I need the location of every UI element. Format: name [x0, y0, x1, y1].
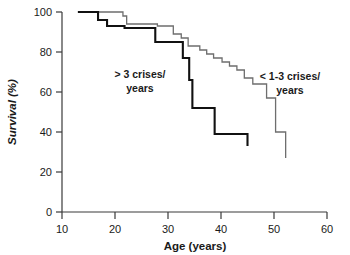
- x-tick-label-40: 40: [215, 223, 227, 235]
- x-tick-label-10: 10: [56, 223, 68, 235]
- annotation-low-crises-line1: < 1-3 crises/: [260, 70, 321, 82]
- y-tick-label-80: 80: [40, 46, 52, 58]
- x-tick-label-50: 50: [268, 223, 280, 235]
- survival-curve-figure: 100 80 60 40 20 0 10 20 30 40 50: [0, 0, 350, 255]
- y-tick-label-40: 40: [40, 126, 52, 138]
- axes: [62, 12, 327, 212]
- y-tick-label-0: 0: [46, 206, 52, 218]
- annotation-high-crises: > 3 crises/ years: [114, 68, 165, 94]
- x-tick-label-30: 30: [162, 223, 174, 235]
- annotation-high-crises-line2: years: [126, 82, 154, 94]
- annotation-low-crises: < 1-3 crises/ years: [260, 70, 321, 96]
- x-tick-label-60: 60: [321, 223, 333, 235]
- x-axis-title: Age (years): [164, 240, 227, 252]
- annotation-low-crises-line2: years: [276, 84, 304, 96]
- y-axis-ticks: 100 80 60 40 20 0: [34, 6, 62, 218]
- annotation-high-crises-line1: > 3 crises/: [114, 68, 165, 80]
- y-tick-label-60: 60: [40, 86, 52, 98]
- survival-curve-low-crises: [78, 12, 286, 158]
- y-tick-label-20: 20: [40, 166, 52, 178]
- x-axis-ticks: 10 20 30 40 50 60: [56, 212, 333, 235]
- y-axis-title: Survival (%): [6, 79, 18, 145]
- y-tick-label-100: 100: [34, 6, 52, 18]
- chart-canvas: 100 80 60 40 20 0 10 20 30 40 50: [0, 0, 350, 255]
- x-tick-label-20: 20: [109, 223, 121, 235]
